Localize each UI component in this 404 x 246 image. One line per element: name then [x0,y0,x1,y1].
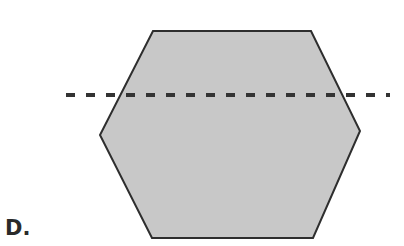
hexagon-shape [100,31,360,238]
option-label: D. [5,216,30,240]
hexagon-diagram [0,0,404,246]
